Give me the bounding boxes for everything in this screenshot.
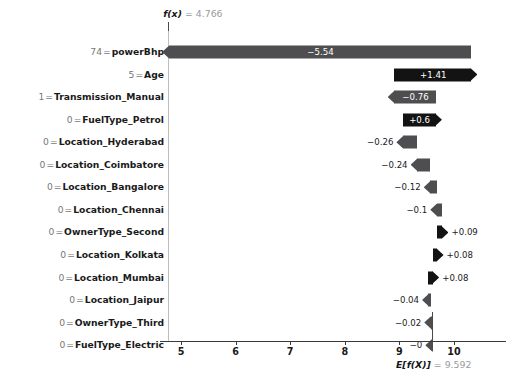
feature-value: 0 [43, 137, 49, 148]
y-axis-label: 0=Location_Hyderabad [43, 138, 164, 147]
bar-arrow-left-icon [424, 181, 431, 194]
feature-name: Location_Coimbatore [55, 159, 164, 170]
feature-name: Location_Jaipur [85, 294, 164, 305]
feature-value: 0 [69, 294, 75, 305]
bar-value-label: −0.24 [381, 160, 407, 169]
waterfall-bar [417, 158, 430, 171]
waterfall-bar [430, 181, 437, 194]
bar-arrow-right-icon [437, 248, 444, 261]
waterfall-bar [403, 136, 417, 149]
feature-name: FuelType_Petrol [82, 114, 164, 125]
bar-value-label: −0 [410, 341, 423, 350]
waterfall-bar [433, 248, 437, 261]
bar-arrow-right-icon [441, 226, 448, 239]
y-axis-label: 0=Location_Coimbatore [40, 160, 164, 169]
equals-sign: = [65, 317, 75, 328]
shap-waterfall-chart: f(x) = 4.766 E[f(X)] = 9.592 74=powerBhp… [0, 0, 510, 389]
x-axis-tick [290, 341, 291, 345]
bar-value-label: +0.09 [451, 228, 477, 237]
equals-sign: = [73, 114, 83, 125]
output-value-key: f(x) [163, 8, 182, 19]
feature-name: Age [144, 69, 164, 80]
equals-sign: = [102, 46, 112, 57]
equals-sign: = [54, 227, 64, 238]
output-value-equals: = [185, 8, 193, 19]
waterfall-bar [437, 226, 442, 239]
y-axis-label: 0=Location_Bangalore [47, 183, 164, 192]
bar-value-label: −0.04 [393, 296, 419, 305]
feature-value: 0 [49, 227, 55, 238]
y-axis-label: 0=OwnerType_Third [59, 318, 164, 327]
x-axis-tick [454, 341, 455, 345]
waterfall-bar [437, 203, 442, 216]
y-axis-label: 5=Age [129, 70, 164, 79]
feature-value: 0 [58, 204, 64, 215]
feature-value: 74 [90, 46, 102, 57]
bar-arrow-left-icon [422, 294, 429, 307]
x-axis-tick [345, 341, 346, 345]
y-axis-label: 0=FuelType_Electric [60, 341, 165, 350]
waterfall-bar [428, 271, 432, 284]
equals-sign: = [53, 182, 63, 193]
feature-name: Location_Bangalore [62, 182, 164, 193]
bar-arrow-left-icon [396, 136, 403, 149]
feature-name: Location_Chennai [73, 204, 164, 215]
feature-value: 0 [59, 317, 65, 328]
feature-name: FuelType_Electric [75, 340, 164, 351]
bar-arrow-left-icon [430, 203, 437, 216]
equals-sign: = [64, 272, 74, 283]
x-axis-tick-label: 9 [396, 347, 403, 357]
base-value-key: E[f(X)] [396, 359, 431, 370]
feature-value: 0 [60, 340, 66, 351]
y-axis-label: 74=powerBhp [90, 47, 164, 56]
x-axis-tick-label: 10 [447, 347, 460, 357]
bar-value-label: −0.76 [402, 93, 428, 102]
feature-name: Location_Mumbai [74, 272, 164, 283]
y-axis-label: 0=OwnerType_Second [49, 228, 164, 237]
feature-name: powerBhp [112, 46, 164, 57]
x-axis-tick-label: 5 [178, 347, 185, 357]
x-axis-tick-label: 8 [341, 347, 348, 357]
base-value-reference-line [432, 312, 433, 341]
bar-value-label: +0.6 [409, 115, 430, 124]
y-axis-label: 0=FuelType_Petrol [67, 115, 164, 124]
x-axis-tick [236, 341, 237, 345]
feature-value: 0 [47, 182, 53, 193]
y-axis-label: 0=Location_Kolkata [60, 250, 164, 259]
output-value-number: 4.766 [196, 8, 223, 19]
bar-value-label: −0.26 [367, 138, 393, 147]
waterfall-bar [431, 316, 432, 329]
bar-value-label: +0.08 [447, 251, 473, 260]
bar-arrow-right-icon [470, 68, 477, 81]
feature-value: 0 [58, 272, 64, 283]
y-axis-label: 0=Location_Chennai [58, 205, 164, 214]
equals-sign: = [49, 137, 59, 148]
feature-name: OwnerType_Second [64, 227, 164, 238]
x-axis-tick-label: 6 [232, 347, 239, 357]
x-axis-tick-label: 7 [287, 347, 294, 357]
equals-sign: = [75, 294, 85, 305]
bar-arrow-left-icon [424, 316, 431, 329]
bar-value-label: −0.1 [406, 206, 427, 215]
y-axis-label: 0=Location_Mumbai [58, 273, 164, 282]
x-axis-tick [181, 341, 182, 345]
feature-value: 1 [38, 91, 44, 102]
output-value-annotation: f(x) = 4.766 [163, 9, 222, 18]
feature-name: Location_Hyderabad [59, 137, 164, 148]
bar-value-label: +0.08 [442, 273, 468, 282]
y-axis-label: 0=Location_Jaipur [69, 295, 164, 304]
y-axis-label: 1=Transmission_Manual [38, 92, 164, 101]
equals-sign: = [44, 91, 54, 102]
bar-value-label: −0.02 [395, 318, 421, 327]
bar-arrow-right-icon [432, 271, 439, 284]
equals-sign: = [134, 69, 144, 80]
feature-name: Transmission_Manual [54, 91, 164, 102]
equals-sign: = [45, 159, 55, 170]
base-value-annotation: E[f(X)] = 9.592 [396, 360, 472, 369]
equals-sign: = [64, 204, 74, 215]
base-value-equals: = [434, 359, 442, 370]
waterfall-bar [428, 294, 430, 307]
feature-value: 5 [129, 69, 135, 80]
output-value-reference-line [168, 22, 169, 341]
feature-name: Location_Kolkata [76, 249, 164, 260]
